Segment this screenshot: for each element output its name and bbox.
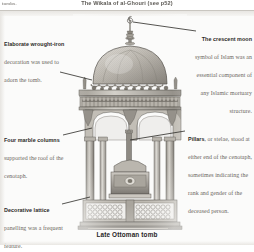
annotation-crescent-moon-lead: The crescent moon bbox=[202, 36, 252, 42]
annotation-pillars-body: , or stelae, stood at either end of the … bbox=[188, 136, 252, 214]
annotation-wrought-iron: Elaborate wrought-iron decoration was us… bbox=[4, 32, 66, 86]
annotation-pillars-lead: Pillars bbox=[188, 136, 205, 142]
annotation-crescent-moon: The crescent moon symbol of Islam was an… bbox=[192, 27, 252, 117]
annotation-lattice-lead: Decorative lattice bbox=[4, 207, 50, 213]
page-edge-shadow-left bbox=[0, 11, 5, 245]
page-edge-shadow-bottom bbox=[0, 241, 254, 245]
annotation-wrought-iron-body: decoration was used to adorn the tomb. bbox=[4, 59, 59, 83]
figure-caption: Late Ottoman tomb bbox=[0, 231, 254, 238]
annotation-marble-columns-lead: Four marble columns bbox=[4, 137, 60, 143]
tomb-illustration bbox=[73, 14, 187, 230]
annotation-marble-columns: Four marble columns supported the roof o… bbox=[4, 128, 64, 182]
annotation-pillars: Pillars, or stelae, stood at either end … bbox=[188, 127, 252, 217]
header-running-title: The Wikala of al-Ghouri (see p52) bbox=[0, 0, 254, 6]
annotation-marble-columns-body: supported the roof of the cenotaph. bbox=[4, 155, 64, 179]
annotation-crescent-moon-body: symbol of Islam was an essential compone… bbox=[195, 54, 252, 114]
annotation-wrought-iron-lead: Elaborate wrought-iron bbox=[4, 41, 64, 47]
caption-rule bbox=[88, 228, 168, 229]
page-header: tombs. The Wikala of al-Ghouri (see p52) bbox=[0, 0, 254, 11]
